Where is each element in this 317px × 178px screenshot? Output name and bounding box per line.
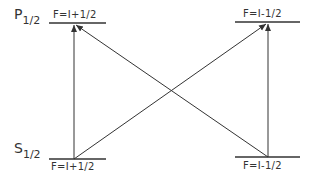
state-sub-p: 1/2 bbox=[22, 14, 40, 27]
f-label-p-plus: F=I+1/2 bbox=[53, 9, 97, 20]
state-letter-s: S bbox=[14, 140, 23, 156]
state-label-s: S1/2 bbox=[14, 140, 41, 161]
f-label-s-minus: F=I-1/2 bbox=[243, 160, 282, 171]
state-label-p: P1/2 bbox=[14, 6, 40, 27]
state-sub-s: 1/2 bbox=[23, 148, 41, 161]
energy-level-diagram: P1/2 S1/2 F=I+1/2 F=I-1/2 F=I+1/2 F=I-1/… bbox=[0, 0, 317, 178]
diagram-canvas bbox=[0, 0, 317, 178]
f-label-s-plus: F=I+1/2 bbox=[51, 161, 95, 172]
transition-s-plus-to-p-minus bbox=[74, 24, 266, 159]
f-label-p-minus: F=I-1/2 bbox=[243, 8, 282, 19]
